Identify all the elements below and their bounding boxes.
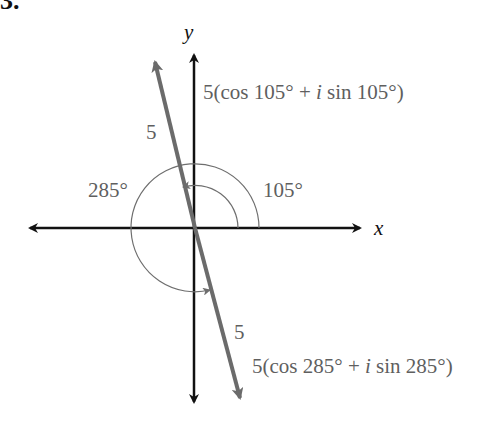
vector-285-magnitude-label: 5 <box>234 320 245 345</box>
y-axis-label: y <box>184 20 193 45</box>
complex-plane-diagram: 3. y x 5(cos 105° + i sin 105°) 5 285° 1… <box>0 0 486 424</box>
angle-285-label: 285° <box>88 178 128 203</box>
vector-285-expression: 5(cos 285° + i sin 285°) <box>252 354 453 379</box>
angle-105-label: 105° <box>263 178 303 203</box>
vector-105-expression: 5(cos 105° + i sin 105°) <box>203 80 404 105</box>
x-axis-label: x <box>374 216 383 241</box>
vector-105-arrow <box>155 62 195 228</box>
vector-105-magnitude-label: 5 <box>146 120 157 145</box>
problem-number: 3. <box>0 0 20 16</box>
vector-285-arrow <box>195 228 240 398</box>
